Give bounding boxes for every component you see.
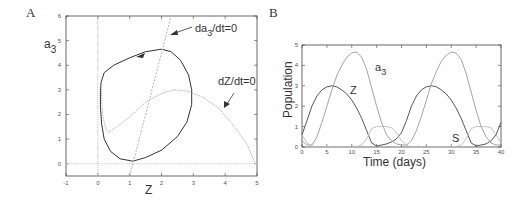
- x-tick-label: 2: [160, 180, 164, 186]
- y-tick-label: 6: [58, 13, 62, 19]
- x-tick-label: 0: [300, 149, 304, 155]
- series-line: [302, 52, 501, 145]
- x-tick-label: 35: [473, 149, 480, 155]
- x-tick-label: -1: [63, 180, 69, 186]
- annotation-arrow-da3: [170, 27, 192, 35]
- x-tick-label: 10: [348, 149, 355, 155]
- y-tick-label: 2: [58, 111, 62, 117]
- series-line: [130, 16, 171, 176]
- y-tick-label: 2: [295, 103, 299, 109]
- y-tick-label: 0: [58, 161, 62, 167]
- x-tick-label: 5: [325, 149, 329, 155]
- panel-a: A -1012345 0123456 Z a3 da3/dt=0 dZ/dt=0: [26, 5, 259, 197]
- series-line: [302, 127, 501, 147]
- panel-a-y-ticks: 0123456: [58, 13, 257, 167]
- panel-a-label: A: [26, 5, 36, 20]
- da3-nullcline-annotation: da3/dt=0: [195, 22, 237, 38]
- panel-b-label: B: [269, 5, 278, 20]
- annotation-arrow-dz: [224, 93, 234, 108]
- a3-series-label: a3: [375, 61, 386, 77]
- panel-b: B 0510152025303540 012345 Time (days) Po…: [269, 5, 505, 169]
- dz-nullcline-annotation: dZ/dt=0: [218, 75, 256, 87]
- y-tick-label: 4: [58, 62, 62, 68]
- panel-a-x-ticks: -1012345: [63, 16, 259, 186]
- x-tick-label: 0: [96, 180, 100, 186]
- series-line: [100, 49, 191, 161]
- y-tick-label: 0: [295, 144, 299, 150]
- series-line: [101, 85, 255, 164]
- panel-b-y-ticks: 012345: [295, 42, 501, 150]
- s-series-label: S: [452, 132, 459, 144]
- z-series-label: Z: [350, 84, 357, 96]
- panel-b-x-axis-label: Time (days): [363, 155, 426, 169]
- y-tick-label: 3: [295, 83, 299, 89]
- figure: A -1012345 0123456 Z a3 da3/dt=0 dZ/dt=0…: [0, 0, 528, 200]
- panel-b-series: [302, 52, 501, 147]
- x-tick-label: 30: [448, 149, 455, 155]
- y-tick-label: 3: [58, 87, 62, 93]
- panel-a-y-axis-label: a3: [44, 37, 57, 55]
- x-tick-label: 3: [192, 180, 196, 186]
- panel-b-x-ticks: 0510152025303540: [300, 45, 505, 155]
- y-tick-label: 5: [58, 38, 62, 44]
- x-tick-label: 1: [128, 180, 132, 186]
- series-line: [302, 86, 501, 146]
- y-tick-label: 1: [295, 124, 299, 130]
- panel-a-x-axis-label: Z: [145, 183, 152, 197]
- y-tick-label: 4: [295, 62, 299, 68]
- x-tick-label: 40: [498, 149, 505, 155]
- y-tick-label: 5: [295, 42, 299, 48]
- panel-a-frame: [66, 16, 257, 176]
- x-tick-label: 5: [255, 180, 259, 186]
- panel-a-series: [66, 16, 257, 176]
- panel-b-y-axis-label: Population: [281, 61, 295, 118]
- y-tick-label: 1: [58, 136, 62, 142]
- x-tick-label: 4: [223, 180, 227, 186]
